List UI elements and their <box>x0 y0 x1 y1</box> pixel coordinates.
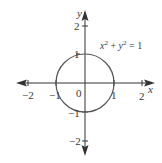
y-tick-label: −1 <box>68 107 80 119</box>
unit-circle-graph: −2 −1 0 1 2 x y 2 1 −1 −2 x2 + y2 = 1 <box>0 0 162 163</box>
y-tick-label: 1 <box>74 48 80 60</box>
y-tick-label: −2 <box>69 135 81 147</box>
x-axis-label: x <box>147 83 153 95</box>
y-axis-label: y <box>76 7 82 19</box>
x-tick-label: 2 <box>139 90 145 102</box>
origin-label: 0 <box>76 87 82 99</box>
equation-label: x2 + y2 = 1 <box>99 39 142 51</box>
x-tick-label: −1 <box>49 89 61 101</box>
y-tick-label: 2 <box>74 20 80 32</box>
x-tick-label: −2 <box>22 89 34 101</box>
x-tick-label: 1 <box>111 89 117 101</box>
